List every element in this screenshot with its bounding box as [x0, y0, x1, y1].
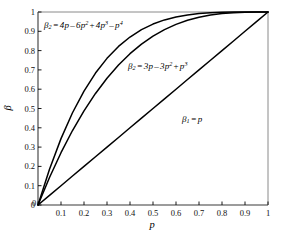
- x-axis-title: p: [149, 219, 154, 230]
- x-tick-label-2: 0.2: [79, 209, 90, 218]
- y-tick-label-2: 0.2: [24, 162, 35, 171]
- x-tick-label-3: 0.3: [102, 209, 113, 218]
- y-tick-label-10: 1: [31, 8, 35, 17]
- curve-beta_1: [38, 12, 268, 205]
- plot-area: [0, 0, 286, 240]
- chart-figure: 00.10.20.30.40.50.60.70.80.91 00.10.20.3…: [0, 0, 286, 240]
- y-tick-label-7: 0.7: [24, 66, 35, 75]
- annotation-beta2-quartic: β2=4p–6p2+4p3–p4: [44, 20, 123, 30]
- y-tick-label-5: 0.5: [24, 104, 35, 113]
- x-tick-label-10: 1: [266, 209, 270, 218]
- x-tick-label-9: 0.9: [240, 209, 251, 218]
- y-tick-label-6: 0.6: [24, 85, 35, 94]
- y-tick-label-3: 0.3: [24, 143, 35, 152]
- x-tick-label-6: 0.6: [171, 209, 182, 218]
- annotation-beta1-linear: β1=p: [182, 114, 202, 124]
- annotation-beta2-cubic: β2=3p–3p2+p3: [128, 61, 188, 71]
- y-tick-label-1: 0.1: [24, 181, 35, 190]
- x-tick-label-7: 0.7: [194, 209, 205, 218]
- y-tick-label-4: 0.4: [24, 124, 35, 133]
- x-tick-label-0: 0: [32, 199, 36, 208]
- y-axis-title: β: [2, 105, 13, 110]
- y-tick-label-8: 0.8: [24, 46, 35, 55]
- x-tick-label-8: 0.8: [217, 209, 228, 218]
- x-tick-label-1: 0.1: [56, 209, 67, 218]
- y-tick-label-9: 0.9: [24, 27, 35, 36]
- x-tick-label-4: 0.4: [125, 209, 136, 218]
- curve-group: [38, 12, 268, 205]
- x-tick-label-5: 0.5: [148, 209, 159, 218]
